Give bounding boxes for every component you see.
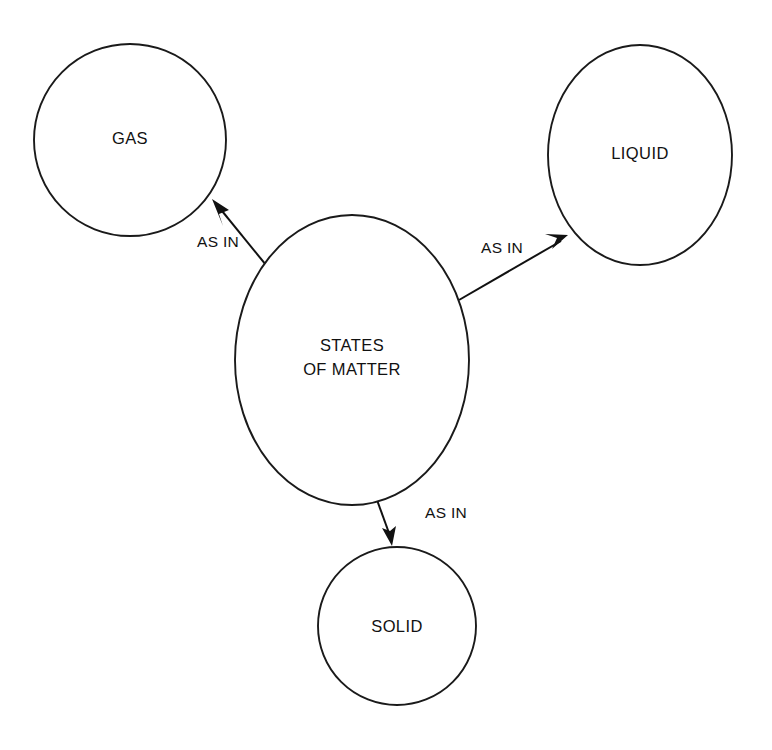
node-center-label-line1: STATES <box>320 336 384 354</box>
node-gas[interactable]: GAS <box>34 44 226 236</box>
edge-label-solid: AS IN <box>425 504 467 521</box>
node-gas-label: GAS <box>112 129 148 147</box>
edge-label-gas: AS IN <box>197 233 239 250</box>
node-solid[interactable]: SOLID <box>318 547 476 705</box>
edge-line-solid <box>377 500 389 533</box>
edge-label-liquid: AS IN <box>481 239 523 256</box>
arrowhead-liquid <box>545 234 568 249</box>
states-of-matter-diagram: AS IN AS IN AS IN GAS LIQUID STATES OF M… <box>0 0 772 750</box>
node-liquid-label: LIQUID <box>611 144 668 162</box>
node-liquid[interactable]: LIQUID <box>548 45 732 265</box>
concept-map-canvas: AS IN AS IN AS IN GAS LIQUID STATES OF M… <box>0 0 772 750</box>
edge-center-to-solid[interactable]: AS IN <box>377 500 467 546</box>
node-center-label-line2: OF MATTER <box>303 360 401 378</box>
node-states-of-matter[interactable]: STATES OF MATTER <box>235 215 469 505</box>
edge-center-to-liquid[interactable]: AS IN <box>459 234 568 300</box>
arrowhead-gas <box>212 199 229 226</box>
arrowhead-solid <box>382 526 396 546</box>
node-solid-label: SOLID <box>371 617 423 635</box>
